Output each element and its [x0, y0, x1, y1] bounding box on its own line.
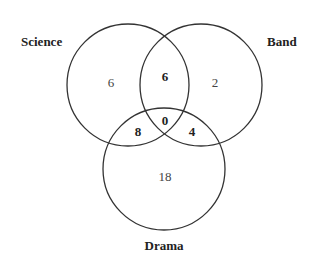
science-only-value: 6 — [108, 75, 115, 90]
science-band-value: 6 — [162, 69, 169, 84]
venn-diagram: Science Band Drama 6 2 18 6 8 4 0 — [0, 0, 315, 262]
all-three-value: 0 — [162, 113, 169, 128]
band-label: Band — [267, 34, 297, 49]
science-circle — [67, 24, 189, 146]
band-circle — [140, 24, 262, 146]
band-drama-value: 4 — [189, 124, 196, 139]
drama-only-value: 18 — [159, 169, 172, 184]
science-drama-value: 8 — [135, 124, 142, 139]
band-only-value: 2 — [212, 75, 219, 90]
drama-label: Drama — [145, 238, 184, 253]
science-label: Science — [21, 34, 62, 49]
